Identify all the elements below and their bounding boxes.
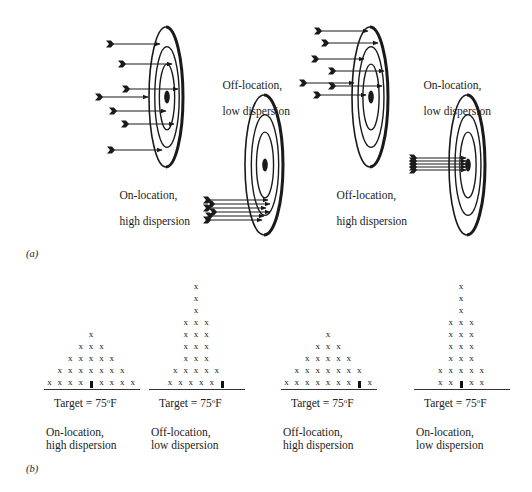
x-mark: x [305, 378, 310, 387]
x-mark: x [469, 342, 474, 351]
x-mark: x [89, 342, 94, 351]
baseline [414, 389, 510, 390]
x-mark: x [448, 378, 453, 387]
x-mark: x [194, 318, 199, 327]
bullseye-icon [368, 91, 374, 104]
arrow-fletching-icon [109, 108, 117, 115]
x-mark: x [469, 378, 474, 387]
arrow-fletching-icon [311, 56, 319, 63]
x-mark: x [469, 318, 474, 327]
arrow-fletching-icon [122, 86, 130, 93]
x-mark: x [336, 342, 341, 351]
x-mark: x [326, 366, 331, 375]
arrow-fletching-icon [107, 147, 115, 154]
x-mark: x [183, 342, 188, 351]
x-mark: x [194, 330, 199, 339]
x-mark: x [448, 342, 453, 351]
x-mark: x [183, 366, 188, 375]
target-temperature-label: Target = 75oF [54, 397, 117, 409]
x-mark: x [480, 378, 485, 387]
bullseye-icon [262, 159, 268, 172]
x-mark: x [315, 378, 320, 387]
dot-plot-caption: On-location, low dispersion [416, 426, 483, 452]
x-mark: x [459, 342, 464, 351]
target-temperature-label: Target = 75oF [291, 397, 354, 409]
x-mark: x [459, 294, 464, 303]
dot-plot-4: xxxxxxxxxxxxxxxxxxxxxxxxTarget = 75oFOn-… [414, 240, 510, 470]
x-mark: x [78, 342, 83, 351]
panel-a-label: (a) [26, 248, 38, 259]
x-mark: x [357, 366, 362, 375]
x-mark: x [295, 378, 300, 387]
x-mark: x [315, 354, 320, 363]
x-mark: x [194, 282, 199, 291]
x-mark: x [204, 330, 209, 339]
x-mark: x [438, 378, 443, 387]
x-mark: x [183, 354, 188, 363]
target-4-caption: On-location, low dispersion [412, 66, 491, 131]
target-3-caption: Off-location, high dispersion [325, 176, 407, 241]
x-mark: x [347, 354, 352, 363]
x-mark: x [178, 378, 183, 387]
x-mark: x [204, 318, 209, 327]
x-mark: x [99, 366, 104, 375]
x-mark: x [194, 294, 199, 303]
x-mark: x [469, 354, 474, 363]
x-mark: x [99, 354, 104, 363]
x-mark: x [326, 378, 331, 387]
x-mark: x [204, 342, 209, 351]
x-mark: x [189, 378, 194, 387]
x-mark: x [99, 342, 104, 351]
figure: On-location, high dispersion Off-locatio… [0, 0, 532, 492]
dot-plot-3: xxxxxxxxxxxxxxxxxxxxxxxxTarget = 75oFOff… [281, 240, 377, 470]
x-mark: x [204, 366, 209, 375]
x-mark: x [305, 366, 310, 375]
x-mark: x [326, 354, 331, 363]
target-1-caption: On-location, high dispersion [108, 176, 190, 241]
arrow-fletching-icon [106, 41, 114, 48]
target-marker [460, 381, 463, 388]
x-mark: x [183, 318, 188, 327]
target-2-caption: Off-location, low dispersion [211, 66, 290, 131]
arrow-fletching-icon [314, 28, 322, 35]
x-mark: x [459, 306, 464, 315]
x-mark: x [78, 378, 83, 387]
x-mark: x [448, 354, 453, 363]
dot-plot-2: xxxxxxxxxxxxxxxxxxxxxxxxxTarget = 75oFOf… [149, 240, 245, 470]
x-mark: x [459, 282, 464, 291]
x-mark: x [315, 366, 320, 375]
x-mark: x [58, 366, 63, 375]
x-mark: x [110, 366, 115, 375]
x-mark: x [68, 366, 73, 375]
x-mark: x [120, 366, 125, 375]
x-mark: x [326, 330, 331, 339]
target-marker [221, 381, 224, 388]
x-mark: x [347, 378, 352, 387]
x-mark: x [448, 366, 453, 375]
x-mark: x [204, 354, 209, 363]
x-mark: x [480, 366, 485, 375]
x-mark: x [120, 378, 125, 387]
x-mark: x [326, 342, 331, 351]
x-mark: x [215, 366, 220, 375]
arrow-fletching-icon [328, 68, 336, 75]
dot-plot-caption: Off-location, low dispersion [151, 426, 218, 452]
x-mark: x [194, 306, 199, 315]
baseline [44, 389, 140, 390]
x-mark: x [448, 330, 453, 339]
x-mark: x [305, 354, 310, 363]
x-mark: x [367, 378, 372, 387]
target-temperature-label: Target = 75oF [159, 397, 222, 409]
x-mark: x [295, 366, 300, 375]
x-mark: x [78, 354, 83, 363]
dot-plot-caption: Off-location, high dispersion [283, 426, 354, 452]
arrow-fletching-icon [95, 94, 103, 101]
x-mark: x [89, 366, 94, 375]
x-mark: x [336, 366, 341, 375]
x-mark: x [99, 378, 104, 387]
arrow-fletching-icon [299, 80, 307, 87]
arrow-fletching-icon [121, 121, 129, 128]
x-mark: x [68, 378, 73, 387]
bullseye-icon [465, 159, 471, 172]
x-mark: x [89, 330, 94, 339]
